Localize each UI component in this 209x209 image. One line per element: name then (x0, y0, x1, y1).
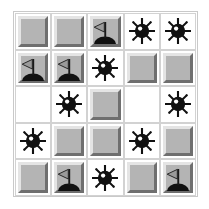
mine-icon (92, 55, 118, 81)
covered-tile (90, 126, 120, 157)
grid-cell-r4c2[interactable] (51, 123, 87, 160)
mine-icon (20, 128, 46, 154)
mine-icon (165, 18, 191, 44)
grid-cell-r4c5[interactable] (160, 123, 196, 160)
grid-cell-r4c3[interactable] (87, 123, 123, 160)
minesweeper-board-container (0, 0, 209, 209)
grid-cell-r5c5[interactable] (160, 159, 196, 196)
grid-cell-r5c2[interactable] (51, 159, 87, 196)
covered-tile (90, 89, 120, 120)
covered-tile (54, 16, 84, 47)
grid-cell-r3c4[interactable] (124, 86, 160, 123)
grid-cell-r2c5[interactable] (160, 50, 196, 87)
grid-cell-r1c5[interactable] (160, 13, 196, 50)
covered-tile (127, 53, 157, 84)
mine-icon (129, 128, 155, 154)
mine-icon (129, 18, 155, 44)
grid-cell-r5c3[interactable] (87, 159, 123, 196)
grid-cell-r3c2[interactable] (51, 86, 87, 123)
grid-cell-r4c1[interactable] (15, 123, 51, 160)
grid-cell-r2c1[interactable] (15, 50, 51, 87)
grid-cell-r3c1[interactable] (15, 86, 51, 123)
minesweeper-grid[interactable] (15, 13, 196, 196)
grid-cell-r3c3[interactable] (87, 86, 123, 123)
flag-icon (163, 166, 193, 192)
grid-cell-r4c4[interactable] (124, 123, 160, 160)
grid-cell-r1c4[interactable] (124, 13, 160, 50)
flag-icon (54, 166, 84, 192)
grid-cell-r1c1[interactable] (15, 13, 51, 50)
covered-tile (54, 126, 84, 157)
grid-cell-r5c1[interactable] (15, 159, 51, 196)
grid-cell-r5c4[interactable] (124, 159, 160, 196)
flag-icon (54, 56, 84, 82)
covered-tile (127, 162, 157, 193)
covered-tile (163, 126, 193, 157)
covered-tile (18, 162, 48, 193)
covered-tile (18, 16, 48, 47)
flag-icon (18, 56, 48, 82)
flag-icon (90, 19, 120, 45)
grid-cell-r2c4[interactable] (124, 50, 160, 87)
grid-cell-r2c3[interactable] (87, 50, 123, 87)
grid-cell-r1c3[interactable] (87, 13, 123, 50)
mine-icon (165, 91, 191, 117)
covered-tile (163, 53, 193, 84)
mine-icon (92, 165, 118, 191)
mine-icon (56, 91, 82, 117)
grid-cell-r3c5[interactable] (160, 86, 196, 123)
grid-cell-r2c2[interactable] (51, 50, 87, 87)
grid-cell-r1c2[interactable] (51, 13, 87, 50)
